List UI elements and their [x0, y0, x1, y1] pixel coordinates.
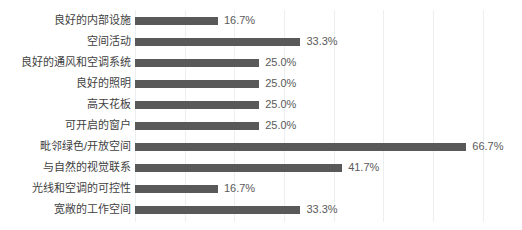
bar-group[interactable]: 25.0%	[135, 52, 296, 73]
category-label: 良好的照明	[0, 73, 131, 94]
category-label: 光线和空调的可控性	[0, 178, 131, 199]
bar-value-label: 25.0%	[265, 52, 296, 73]
bar-row: 16.7%	[135, 178, 515, 199]
bar-group[interactable]: 16.7%	[135, 178, 255, 199]
bar[interactable]	[135, 80, 259, 88]
bar-row: 25.0%	[135, 52, 515, 73]
horizontal-bar-chart: 16.7%33.3%25.0%25.0%25.0%25.0%66.7%41.7%…	[0, 0, 522, 230]
bar-row: 25.0%	[135, 94, 515, 115]
bar[interactable]	[135, 206, 300, 214]
bar[interactable]	[135, 122, 259, 130]
bar-row: 33.3%	[135, 31, 515, 52]
bar-row: 66.7%	[135, 136, 515, 157]
bar-row: 41.7%	[135, 157, 515, 178]
bar-value-label: 25.0%	[265, 73, 296, 94]
category-label: 良好的通风和空调系统	[0, 52, 131, 73]
category-label: 空间活动	[0, 31, 131, 52]
bar-value-label: 33.3%	[306, 199, 337, 220]
bar[interactable]	[135, 164, 342, 172]
bar-value-label: 16.7%	[224, 10, 255, 31]
bar-value-label: 25.0%	[265, 94, 296, 115]
category-label: 良好的内部设施	[0, 10, 131, 31]
category-label: 可开启的窗户	[0, 115, 131, 136]
bar[interactable]	[135, 143, 466, 151]
bar-value-label: 66.7%	[472, 136, 503, 157]
plot-area: 16.7%33.3%25.0%25.0%25.0%25.0%66.7%41.7%…	[135, 10, 515, 222]
bar-value-label: 41.7%	[348, 157, 379, 178]
category-label: 宽敞的工作空间	[0, 199, 131, 220]
bar-row: 33.3%	[135, 199, 515, 220]
category-label: 毗邻绿色/开放空间	[0, 136, 131, 157]
bar-row: 16.7%	[135, 10, 515, 31]
bar-value-label: 25.0%	[265, 115, 296, 136]
bar-value-label: 16.7%	[224, 178, 255, 199]
bar[interactable]	[135, 101, 259, 109]
category-label: 与自然的视觉联系	[0, 157, 131, 178]
bar-group[interactable]: 33.3%	[135, 199, 338, 220]
bar[interactable]	[135, 185, 218, 193]
bar-group[interactable]: 33.3%	[135, 31, 338, 52]
bar-group[interactable]: 25.0%	[135, 94, 296, 115]
category-label: 高天花板	[0, 94, 131, 115]
bar[interactable]	[135, 38, 300, 46]
bar-group[interactable]: 66.7%	[135, 136, 504, 157]
bar[interactable]	[135, 59, 259, 67]
bar-value-label: 33.3%	[306, 31, 337, 52]
category-label-column: 良好的内部设施空间活动良好的通风和空调系统良好的照明高天花板可开启的窗户毗邻绿色…	[0, 10, 131, 222]
bar-row: 25.0%	[135, 115, 515, 136]
bar-row: 25.0%	[135, 73, 515, 94]
bar-group[interactable]: 41.7%	[135, 157, 379, 178]
bar-group[interactable]: 16.7%	[135, 10, 255, 31]
bar-group[interactable]: 25.0%	[135, 73, 296, 94]
bar-group[interactable]: 25.0%	[135, 115, 296, 136]
bar[interactable]	[135, 17, 218, 25]
